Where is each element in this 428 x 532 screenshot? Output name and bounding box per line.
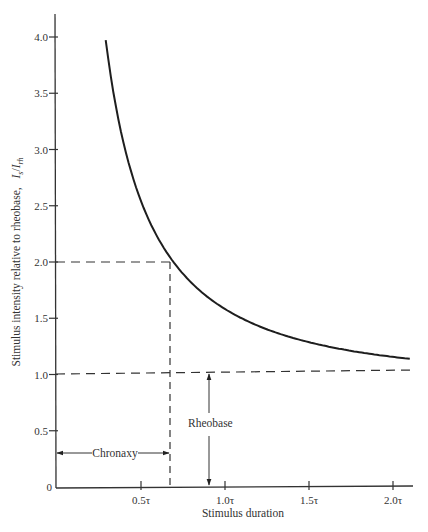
y-tick-label: 1.0 — [34, 369, 48, 381]
x-tick-label: 1.0τ — [216, 494, 235, 506]
chronaxy-annotation: Chronaxy — [57, 447, 169, 460]
y-axis-symbol-sub-rh: rh — [16, 157, 25, 164]
axes — [55, 14, 413, 488]
y-axis-title: Stimulus intensity relative to rheobase,… — [10, 157, 25, 366]
chronaxy-label: Chronaxy — [92, 447, 138, 460]
strength-duration-chart: 00.51.01.52.02.53.03.54.0 0.5τ1.0τ1.5τ2.… — [0, 0, 428, 532]
y-tick-label: 0 — [47, 481, 53, 493]
rheobase-label: Rheobase — [188, 417, 233, 429]
x-tick-label: 2.0τ — [384, 494, 403, 506]
x-ticks: 0.5τ1.0τ1.5τ2.0τ — [132, 481, 403, 506]
y-ticks: 00.51.01.52.02.53.03.54.0 — [34, 31, 58, 493]
y-axis-title-main: Stimulus intensity relative to rheobase, — [10, 187, 23, 366]
y-tick-label: 4.0 — [34, 31, 48, 43]
x-tick-label: 0.5τ — [132, 494, 151, 506]
y-tick-label: 1.5 — [34, 312, 48, 324]
rheobase-annotation: Rheobase — [188, 374, 233, 485]
y-tick-label: 3.5 — [34, 87, 48, 99]
y-tick-label: 2.0 — [34, 256, 48, 268]
svg-text:Stimulus intensity relative to: Stimulus intensity relative to rheobase,… — [10, 157, 25, 366]
x-axis-title: Stimulus duration — [202, 507, 284, 519]
x-axis-line — [56, 486, 413, 488]
strength-duration-curve — [106, 40, 410, 359]
y-tick-label: 3.0 — [34, 144, 48, 156]
x-tick-label: 1.5τ — [300, 494, 319, 506]
rheobase-dashed-line — [56, 370, 413, 374]
y-tick-label: 0.5 — [34, 425, 48, 437]
y-axis-line — [55, 14, 56, 488]
y-tick-label: 2.5 — [34, 200, 48, 212]
